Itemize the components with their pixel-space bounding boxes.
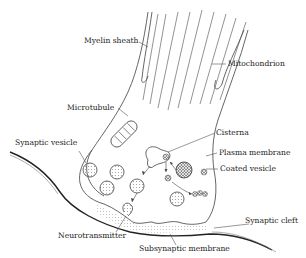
label-microtubule: Microtubule [67,104,114,112]
exocytosis-fusion [123,203,133,216]
label-mitochondrion: Mitochondrion [228,60,285,68]
label-coated-vesicle: Coated vesicle [220,165,276,173]
label-synaptic-vesicle: Synaptic vesicle [15,139,77,147]
label-cisterna: Cisterna [216,129,249,137]
label-synaptic-cleft: Synaptic cleft [245,217,298,225]
subsynaptic-membrane-double [10,155,58,194]
coated-cluster [193,191,208,197]
microtubule-shape [108,118,139,149]
label-plasma-membrane: Plasma membrane [219,149,290,157]
label-myelin-sheath: Myelin sheath [84,37,138,45]
label-neurotransmitter: Neurotransmitter [58,232,126,240]
coated-vesicle-shape [176,162,192,178]
cisterna-bud [163,154,169,160]
label-subsynaptic-membrane: Subsynaptic membrane [139,245,230,253]
coated-small [165,175,171,181]
coated-bud-membrane [201,169,207,175]
